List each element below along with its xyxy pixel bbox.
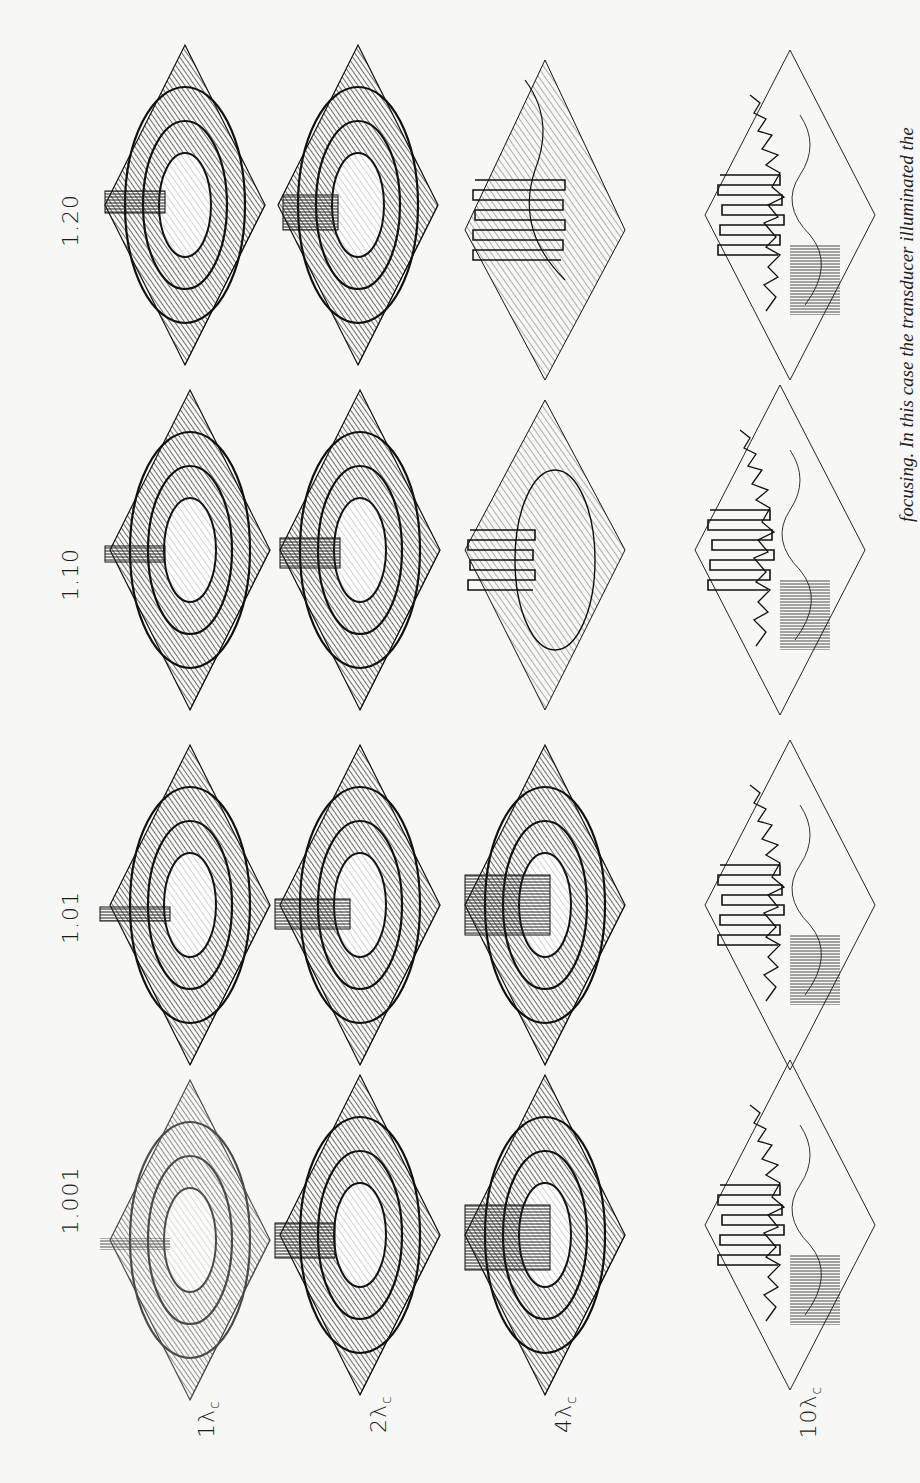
- panel-1-01-2lc: [275, 745, 440, 1065]
- panel-1-01-10lc: [705, 740, 875, 1070]
- panel-1-001-2lc: [275, 1075, 440, 1395]
- panel-1-001-4lc: [465, 1075, 625, 1395]
- panel-1-10-2lc: [280, 390, 440, 710]
- panel-1-20-4lc: [465, 60, 625, 380]
- panel-1-10-10lc: [695, 385, 865, 715]
- panel-1-001-1lc: [100, 1080, 270, 1400]
- panel-1-20-1lc: [105, 45, 265, 365]
- panel-1-01-4lc: [465, 745, 625, 1065]
- panel-1-10-4lc: [465, 400, 625, 710]
- panel-1-20-10lc: [705, 50, 875, 380]
- panel-1-20-2lc: [278, 45, 438, 365]
- panel-1-10-1lc: [105, 390, 270, 710]
- panel-1-01-1lc: [100, 745, 270, 1065]
- panel-1-001-10lc: [705, 1060, 875, 1390]
